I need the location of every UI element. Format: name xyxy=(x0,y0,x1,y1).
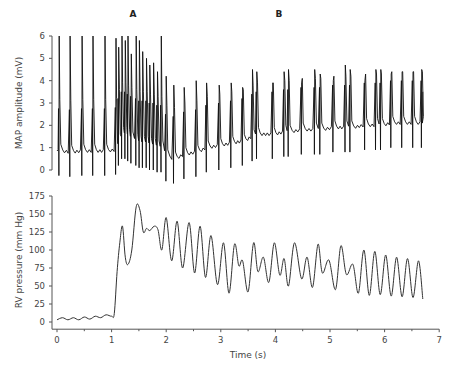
bottom-y-tick-label: 75 xyxy=(34,263,45,273)
bottom-y-tick-label: 0 xyxy=(40,317,45,327)
x-tick-label: 6 xyxy=(382,335,387,345)
top-y-tick-label: 1 xyxy=(40,143,45,153)
x-tick-label: 2 xyxy=(163,335,168,345)
x-tick-label: 7 xyxy=(436,335,441,345)
top-y-axis-title: MAP amplitude (mV) xyxy=(14,57,24,150)
bottom-y-axis-title: RV pressure (mm Hg) xyxy=(14,212,24,308)
x-tick-label: 0 xyxy=(54,335,59,345)
chart: A B 0123456 MAP amplitude (mV) 025507510… xyxy=(0,0,456,373)
top-y-tick-label: 6 xyxy=(40,31,45,41)
top-y-axis: 0123456 xyxy=(40,31,52,175)
bottom-y-axis: 0255075100125150175 xyxy=(29,191,52,329)
x-axis: 01234567 xyxy=(52,329,442,345)
map-trace xyxy=(57,36,423,183)
x-tick-label: 3 xyxy=(218,335,223,345)
top-y-tick-label: 2 xyxy=(40,120,45,130)
bottom-y-tick-label: 25 xyxy=(34,299,45,309)
bottom-y-tick-label: 150 xyxy=(29,209,45,219)
panel-label-a: A xyxy=(130,9,137,19)
bottom-y-tick-label: 100 xyxy=(29,245,45,255)
bottom-y-tick-label: 50 xyxy=(34,281,45,291)
top-y-tick-label: 4 xyxy=(40,76,45,86)
x-tick-label: 4 xyxy=(273,335,278,345)
bottom-y-tick-label: 175 xyxy=(29,191,45,201)
top-y-tick-label: 5 xyxy=(40,53,45,63)
x-axis-title: Time (s) xyxy=(229,350,267,360)
panel-label-b: B xyxy=(276,9,283,19)
x-tick-label: 1 xyxy=(109,335,114,345)
x-tick-label: 5 xyxy=(327,335,332,345)
top-y-tick-label: 0 xyxy=(40,165,45,175)
top-y-tick-label: 3 xyxy=(40,98,45,108)
rv-pressure-trace xyxy=(57,204,423,320)
bottom-y-tick-label: 125 xyxy=(29,227,45,237)
